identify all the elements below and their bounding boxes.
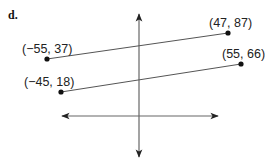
point-dot <box>58 89 63 94</box>
point-label: (55, 66) <box>222 47 265 61</box>
lower-segment <box>61 64 241 92</box>
point-dot <box>44 56 49 61</box>
part-label: d. <box>8 8 18 23</box>
point-dot <box>225 30 230 35</box>
point-label: (−45, 18) <box>24 75 74 89</box>
point-dot <box>238 61 243 66</box>
point-label: (−55, 37) <box>22 42 72 56</box>
point-label: (47, 87) <box>209 16 252 30</box>
upper-segment <box>47 33 228 59</box>
coordinate-diagram: d. (−55, 37)(47, 87)(−45, 18)(55, 66) <box>0 0 272 164</box>
